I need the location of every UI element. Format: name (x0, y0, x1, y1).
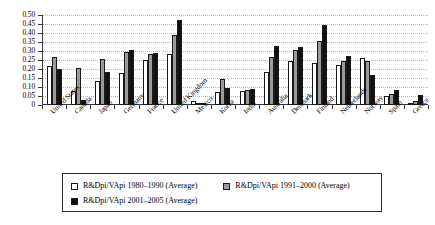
legend-label: R&Dpi/VApi 1991–2000 (Average) (235, 182, 349, 190)
bar-group (114, 15, 138, 105)
y-axis-tick-label: 0.15 (22, 74, 35, 81)
bar-group (235, 15, 259, 105)
bar-group (283, 15, 307, 105)
bar-group (259, 15, 283, 105)
bar-group (380, 15, 404, 105)
legend-item-1991-2000[interactable]: R&Dpi/VApi 1991–2000 (Average) (223, 182, 349, 190)
bar-group (139, 15, 163, 105)
legend: R&Dpi/VApi 1980–1990 (Average) R&Dpi/VAp… (62, 173, 382, 212)
bar-group (404, 15, 428, 105)
legend-swatch-icon (71, 183, 78, 190)
y-axis-tick-label: 0.30 (22, 47, 35, 54)
bar-group (211, 15, 235, 105)
bar (322, 25, 327, 105)
bar (129, 50, 134, 105)
y-axis-tick-label: 0.45 (22, 20, 35, 27)
legend-swatch-icon (71, 198, 78, 205)
bar-group (307, 15, 331, 105)
bar (177, 20, 182, 106)
y-axis-tick-label: 0.10 (22, 83, 35, 90)
bar-group (90, 15, 114, 105)
legend-item-1980-1990[interactable]: R&Dpi/VApi 1980–1990 (Average) (71, 182, 197, 190)
y-axis-tick-label: 0.40 (22, 29, 35, 36)
y-axis-tick-label: 0.25 (22, 56, 35, 63)
y-axis-tick-label: 0.50 (22, 11, 35, 18)
legend-row: R&Dpi/VApi 2001–2005 (Average) (71, 195, 197, 207)
y-axis: 00.050.100.150.200.250.300.350.400.450.5… (0, 15, 40, 105)
legend-label: R&Dpi/VApi 1980–1990 (Average) (83, 182, 197, 190)
x-axis-labels: United StatesCanadaJapanGermanyFranceUni… (0, 104, 435, 164)
bar-groups (42, 15, 428, 105)
y-axis-tick-label: 0.35 (22, 38, 35, 45)
y-axis-tick-label: 0.20 (22, 65, 35, 72)
legend-label: R&Dpi/VApi 2001–2005 (Average) (83, 197, 197, 205)
bar-group (163, 15, 187, 105)
legend-swatch-icon (223, 183, 230, 190)
legend-item-2001-2005[interactable]: R&Dpi/VApi 2001–2005 (Average) (71, 197, 197, 205)
legend-row: R&Dpi/VApi 1980–1990 (Average) R&Dpi/VAp… (71, 180, 350, 192)
bar-group (332, 15, 356, 105)
y-axis-tick-label: 0.05 (22, 92, 35, 99)
bar-group (42, 15, 66, 105)
bar-chart: 00.050.100.150.200.250.300.350.400.450.5… (0, 0, 435, 225)
